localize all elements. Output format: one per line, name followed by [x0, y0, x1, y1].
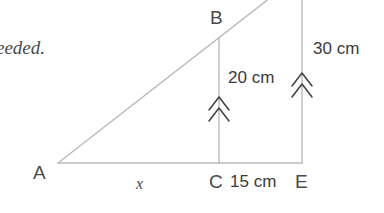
vertex-label-c: C [209, 172, 223, 191]
measure-label-segment-ce: 15 cm [230, 173, 276, 190]
measure-label-height-bc: 20 cm [228, 69, 274, 86]
vertex-label-e: E [295, 172, 308, 191]
cropped-text-fragment: eeded. [0, 38, 45, 57]
vertex-label-a: A [33, 163, 46, 182]
vertex-label-b: B [210, 8, 223, 27]
geometry-figure-page: eeded. A B C E x 15 cm 20 cm 30 cm [0, 0, 384, 213]
geometry-diagram-canvas [0, 0, 384, 213]
measure-label-base-x: x [136, 176, 143, 192]
measure-label-height-de: 30 cm [313, 40, 359, 57]
